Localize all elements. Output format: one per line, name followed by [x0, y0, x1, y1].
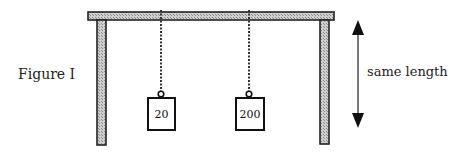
weight-20-label: 20 — [155, 108, 169, 121]
left-hook — [158, 91, 164, 97]
crossbar — [88, 12, 334, 20]
arrow-down-icon — [352, 113, 364, 128]
weight-200-label: 200 — [240, 108, 261, 121]
same-length-label: same length — [367, 64, 448, 79]
right-hook — [246, 91, 252, 97]
right-post — [320, 20, 329, 144]
arrow-up-icon — [352, 20, 364, 35]
left-post — [97, 20, 106, 145]
figure-label: Figure I — [18, 66, 75, 82]
